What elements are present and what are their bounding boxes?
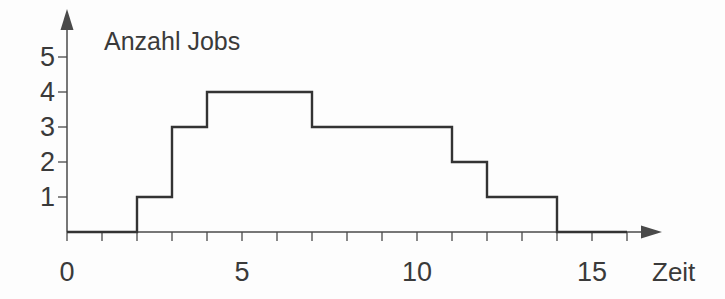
step-line	[67, 92, 627, 232]
y-axis-arrowhead	[61, 9, 74, 30]
step-chart-figure: 05101512345 Anzahl Jobs Zeit	[0, 0, 725, 299]
x-tick-label: 15	[577, 257, 607, 287]
chart-title: Anzahl Jobs	[104, 27, 240, 55]
x-axis-arrowhead	[641, 226, 662, 239]
x-axis-label: Zeit	[652, 257, 696, 287]
y-tick-label: 3	[40, 112, 55, 142]
x-tick-label: 0	[59, 257, 74, 287]
y-tick-label: 2	[40, 147, 55, 177]
y-tick-label: 5	[40, 42, 55, 72]
y-tick-label: 4	[40, 77, 55, 107]
x-tick-label: 10	[402, 257, 432, 287]
chart-canvas: 05101512345 Anzahl Jobs Zeit	[0, 0, 725, 299]
y-tick-label: 1	[40, 182, 55, 212]
x-tick-label: 5	[234, 257, 249, 287]
